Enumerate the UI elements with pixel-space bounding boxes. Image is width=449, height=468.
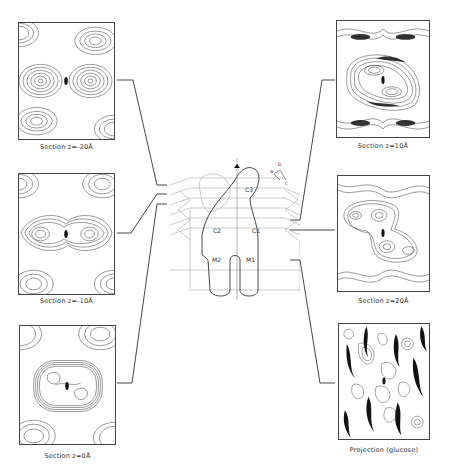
caption-section-z-20: Section z=20Å	[337, 297, 430, 305]
molecular-envelope-diagram: C3 C2 C1 M2 M1 a b c	[170, 150, 300, 300]
contour-lines	[20, 326, 115, 444]
contour-map-section-z-minus-20	[18, 22, 115, 140]
twofold-axis-marker	[64, 230, 68, 238]
caption-section-z-10: Section z=10Å	[336, 142, 430, 150]
contour-lines	[338, 176, 429, 291]
contour-map-section-z-20	[337, 175, 430, 292]
caption-section-z-0: Section z=0Å	[19, 452, 116, 460]
contour-map-section-z-10	[336, 20, 430, 138]
contour-map-section-z-0	[19, 325, 116, 445]
envelope-outline	[170, 150, 300, 300]
domain-label-c2: C2	[213, 227, 221, 234]
axis-label-a: a	[270, 168, 273, 174]
caption-projection-glucose: Projection (glucose)	[338, 446, 430, 454]
contour-lines	[337, 21, 429, 137]
twofold-axis-marker	[381, 229, 384, 237]
axis-label-b: b	[278, 161, 281, 167]
caption-section-z-minus-20: Section z=-20Å	[18, 143, 115, 151]
domain-label-c1: C1	[252, 227, 260, 234]
twofold-axis-marker	[381, 76, 384, 84]
twofold-axis-marker	[382, 378, 385, 385]
contour-lines	[19, 174, 114, 294]
domain-label-c3: C3	[245, 186, 253, 193]
contour-map-projection-glucose	[338, 323, 430, 440]
caption-section-z-minus-10: Section z=-10Å	[18, 297, 115, 305]
contour-lines	[339, 324, 429, 439]
axis-label-c: c	[285, 180, 288, 186]
twofold-axis-marker	[64, 77, 68, 85]
contour-lines	[19, 23, 114, 139]
contour-map-section-z-minus-10	[18, 173, 115, 295]
domain-label-m1: M1	[246, 256, 255, 263]
domain-label-m2: M2	[212, 256, 221, 263]
twofold-axis-marker	[65, 382, 69, 390]
